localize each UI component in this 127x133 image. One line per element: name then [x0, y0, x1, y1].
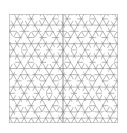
pattern-tile: Square tile of a hexagram (star-of-David… — [9, 14, 118, 123]
hexagram-lattice-graphic — [9, 14, 118, 123]
